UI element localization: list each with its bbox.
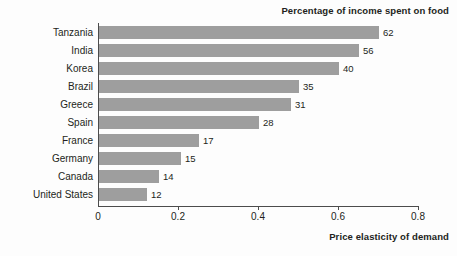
- category-label: United States: [33, 186, 93, 204]
- bar-row: Greece31: [98, 96, 418, 114]
- x-axis-tick: [178, 206, 179, 210]
- bar: [99, 62, 339, 75]
- category-label: Brazil: [68, 78, 93, 96]
- bar-row: Korea40: [98, 60, 418, 78]
- bar-value-label: 35: [303, 78, 314, 96]
- bar-value-label: 28: [263, 114, 274, 132]
- x-axis-tick: [418, 206, 419, 210]
- bar-row: India56: [98, 42, 418, 60]
- bar: [99, 134, 199, 147]
- bar-chart: Percentage of income spent on food Tanza…: [0, 0, 457, 256]
- bar: [99, 152, 181, 165]
- category-label: Germany: [52, 150, 93, 168]
- bar-value-label: 17: [203, 132, 214, 150]
- plot-area: Tanzania62India56Korea40Brazil35Greece31…: [98, 24, 418, 204]
- bar-value-label: 14: [163, 168, 174, 186]
- bar-row: Canada14: [98, 168, 418, 186]
- x-axis-tick-label: 0.6: [331, 211, 345, 222]
- bar: [99, 116, 259, 129]
- bar: [99, 80, 299, 93]
- bar-row: United States12: [98, 186, 418, 204]
- bar-value-label: 40: [343, 60, 354, 78]
- x-axis-label: Price elasticity of demand: [329, 231, 449, 242]
- chart-title: Percentage of income spent on food: [281, 5, 449, 16]
- category-label: Spain: [67, 114, 93, 132]
- bar: [99, 188, 147, 201]
- category-label: Greece: [60, 96, 93, 114]
- bar-row: Germany15: [98, 150, 418, 168]
- x-axis-tick: [338, 206, 339, 210]
- bar: [99, 98, 291, 111]
- category-label: Canada: [58, 168, 93, 186]
- bar: [99, 44, 359, 57]
- bar: [99, 26, 379, 39]
- category-label: Korea: [66, 60, 93, 78]
- category-label: Tanzania: [53, 24, 93, 42]
- bar-value-label: 62: [383, 24, 394, 42]
- bar-row: Tanzania62: [98, 24, 418, 42]
- bar-row: Brazil35: [98, 78, 418, 96]
- category-label: France: [62, 132, 93, 150]
- bar-value-label: 15: [185, 150, 196, 168]
- x-axis-tick: [258, 206, 259, 210]
- x-axis-tick-label: 0: [95, 211, 101, 222]
- x-axis-tick-label: 0.2: [171, 211, 185, 222]
- bar-row: France17: [98, 132, 418, 150]
- x-axis-tick-label: 0.4: [251, 211, 265, 222]
- bar-value-label: 31: [295, 96, 306, 114]
- bar: [99, 170, 159, 183]
- bar-value-label: 56: [363, 42, 374, 60]
- bar-row: Spain28: [98, 114, 418, 132]
- category-label: India: [71, 42, 93, 60]
- bar-value-label: 12: [151, 186, 162, 204]
- x-axis-tick-label: 0.8: [411, 211, 425, 222]
